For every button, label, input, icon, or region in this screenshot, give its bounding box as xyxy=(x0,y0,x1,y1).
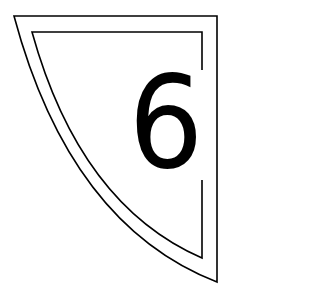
badge-number: 6 xyxy=(122,58,210,188)
